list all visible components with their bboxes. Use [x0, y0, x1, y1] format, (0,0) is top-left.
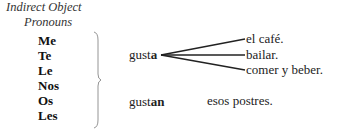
verb-gusta: gusta: [129, 47, 157, 63]
object-bailar: bailar.: [246, 47, 278, 63]
verb-gustan: gustan: [129, 94, 164, 110]
brace-icon: [94, 32, 101, 128]
object-esos-postres: esos postres.: [207, 93, 273, 109]
object-el-cafe: el café.: [246, 31, 284, 47]
object-comer-y-beber: comer y beber.: [246, 62, 323, 78]
connector-line-1: [161, 39, 245, 55]
connector-line-3: [161, 55, 245, 70]
